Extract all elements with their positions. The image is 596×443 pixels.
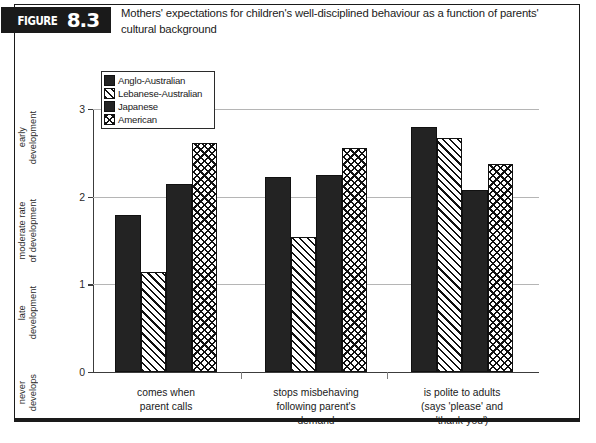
- bar: [115, 215, 141, 372]
- legend-item: Japanese: [104, 100, 211, 113]
- y-axis-descriptor-line: development: [28, 111, 39, 164]
- y-axis-descriptor-line: late: [17, 286, 28, 339]
- figure-tag-word: FIGURE: [17, 13, 57, 28]
- x-category-label: is polite to adults (says 'please' and '…: [392, 386, 532, 428]
- y-tick-label: 1: [79, 278, 85, 290]
- y-axis-descriptor: earlydevelopment: [17, 111, 39, 164]
- y-axis-descriptor-line: development: [28, 286, 39, 339]
- figure-header: FIGURE 8.3 Mothers' expectations for chi…: [15, 5, 579, 47]
- legend-swatch-diagonal-hatch: [104, 88, 115, 99]
- bar: [316, 175, 342, 372]
- plot-area: 0123 earlydevelopmentmoderate rateof dev…: [93, 109, 539, 372]
- legend-swatch-cross-hatch: [104, 114, 115, 125]
- figure-title: Mothers' expectations for children's wel…: [121, 6, 557, 37]
- bar: [437, 138, 463, 372]
- y-axis-descriptor: neverdevelops: [17, 374, 39, 411]
- x-category-label: comes when parent calls: [96, 386, 236, 414]
- y-tick-label: 0: [79, 366, 85, 378]
- y-axis-descriptor-line: moderate rate: [17, 199, 28, 263]
- group-separator-tick: [241, 372, 242, 379]
- y-axis-descriptor: moderate rateof development: [17, 199, 39, 263]
- y-tick-label: 2: [79, 191, 85, 203]
- y-tick-mark: [88, 284, 93, 285]
- bar: [166, 184, 192, 372]
- x-category-label: stops misbehaving following parent's dem…: [246, 386, 386, 428]
- y-tick-label: 3: [79, 103, 85, 115]
- legend-swatch-solid-black: [104, 75, 115, 86]
- figure-container: FIGURE 8.3 Mothers' expectations for chi…: [14, 4, 580, 422]
- bar: [488, 164, 514, 372]
- y-tick-mark: [88, 372, 93, 373]
- figure-number-banner: FIGURE 8.3: [1, 7, 111, 33]
- bar: [265, 177, 291, 372]
- legend-item: Lebanese-Australian: [104, 87, 211, 100]
- y-tick-mark: [88, 109, 93, 110]
- legend-label: Anglo-Australian: [118, 75, 185, 86]
- chart-legend: Anglo-AustralianLebanese-AustralianJapan…: [101, 71, 215, 129]
- y-tick-mark: [88, 197, 93, 198]
- y-axis-descriptor-line: early: [17, 111, 28, 164]
- bar: [141, 272, 167, 372]
- x-axis-line: [93, 372, 539, 373]
- group-separator-tick: [387, 372, 388, 379]
- y-axis-descriptor-line: develops: [28, 374, 39, 411]
- y-axis-descriptor-line: never: [17, 374, 28, 411]
- bar: [411, 127, 437, 372]
- y-axis-descriptor-line: of development: [28, 199, 39, 263]
- y-axis-descriptor: latedevelopment: [17, 286, 39, 339]
- bar: [342, 148, 368, 372]
- bar: [291, 237, 317, 372]
- bar: [192, 143, 218, 372]
- legend-item: American: [104, 113, 211, 126]
- y-axis-line: [93, 109, 94, 372]
- bar: [462, 190, 488, 372]
- legend-label: Lebanese-Australian: [118, 88, 202, 99]
- legend-swatch-solid-black: [104, 101, 115, 112]
- legend-label: American: [118, 114, 157, 125]
- figure-tag-number: 8.3: [67, 10, 99, 30]
- legend-label: Japanese: [118, 101, 158, 112]
- legend-item: Anglo-Australian: [104, 74, 211, 87]
